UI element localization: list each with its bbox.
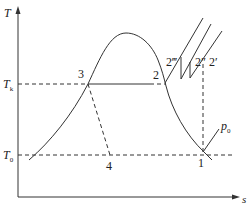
isobar-p0 [203, 129, 219, 152]
point-1-label: 1 [198, 156, 204, 170]
point-2-prime-label: 2′ [209, 55, 218, 69]
t-axis-label: T [4, 6, 12, 20]
tk-label: Tk [3, 77, 14, 93]
t-axis-arrow-icon [16, 6, 21, 14]
s-axis-arrow-icon [232, 195, 240, 200]
point-3-label: 3 [78, 67, 84, 81]
p0-label-sub: 0 [227, 127, 231, 135]
p0-label-main: p [220, 119, 227, 133]
t0-label: T0 [3, 148, 14, 164]
point-2-triple-prime-label: 2‴ [166, 55, 177, 69]
point-2-double-prime-label: 2″ [195, 55, 206, 69]
throttle-line-3-4 [88, 84, 110, 155]
point-4-label: 4 [106, 159, 112, 173]
t-s-diagram: T s Tk T0 3 2 2‴ 2″ 2′ 4 1 p0 [0, 0, 252, 214]
saturation-dome [29, 33, 212, 160]
point-2-label: 2 [153, 68, 159, 82]
compression-lines [165, 18, 222, 83]
zigzag-2triple-2double [181, 24, 211, 79]
tk-label-sub: k [10, 85, 14, 93]
isobar-p0-label: p0 [220, 119, 231, 135]
s-axis-label: s [242, 193, 246, 205]
t0-label-sub: 0 [10, 156, 14, 164]
